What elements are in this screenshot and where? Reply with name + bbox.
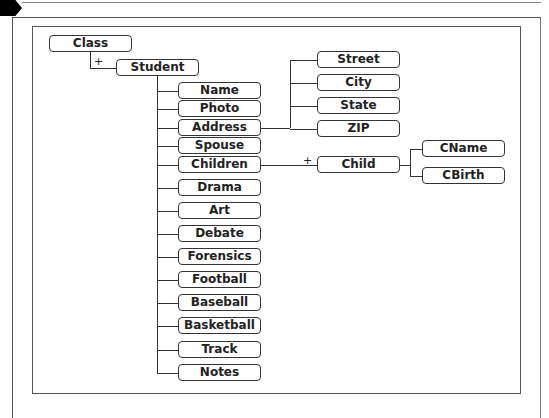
child-field-cbirth: CBirth xyxy=(422,167,505,184)
connector xyxy=(290,60,291,128)
connector xyxy=(157,257,178,258)
attribute-name: Name xyxy=(178,82,261,99)
address-field-state: State xyxy=(317,97,400,114)
connector xyxy=(90,52,91,68)
page-tab-marker xyxy=(0,0,22,16)
attribute-forensics: Forensics xyxy=(178,248,261,265)
connector xyxy=(157,165,178,166)
node-class: Class xyxy=(49,35,132,52)
connector xyxy=(157,303,178,304)
attribute-children: Children xyxy=(178,156,261,173)
diagram-frame xyxy=(32,26,521,394)
connector xyxy=(90,68,116,69)
multiplicity-marker: + xyxy=(94,56,103,67)
connector xyxy=(290,129,317,130)
attribute-photo: Photo xyxy=(178,100,261,117)
node-student: Student xyxy=(116,59,199,76)
connector xyxy=(290,83,317,84)
connector xyxy=(157,188,178,189)
attribute-baseball: Baseball xyxy=(178,294,261,311)
attribute-spouse: Spouse xyxy=(178,137,261,154)
address-field-zip: ZIP xyxy=(317,120,400,137)
connector xyxy=(157,234,178,235)
node-child: Child xyxy=(317,156,400,173)
connector xyxy=(157,128,178,129)
connector xyxy=(157,373,178,374)
connector xyxy=(157,326,178,327)
connector xyxy=(157,146,178,147)
attribute-address: Address xyxy=(178,119,261,136)
attribute-track: Track xyxy=(178,341,261,358)
connector xyxy=(157,211,178,212)
connector xyxy=(157,350,178,351)
multiplicity-marker: + xyxy=(303,155,312,166)
connector xyxy=(410,176,422,177)
connector xyxy=(290,106,317,107)
child-field-cname: CName xyxy=(422,140,505,157)
attribute-football: Football xyxy=(178,271,261,288)
attribute-art: Art xyxy=(178,202,261,219)
attribute-basketball: Basketball xyxy=(178,317,261,334)
connector xyxy=(290,60,317,61)
connector xyxy=(410,149,422,150)
connector xyxy=(410,149,411,176)
attribute-drama: Drama xyxy=(178,179,261,196)
attribute-notes: Notes xyxy=(178,364,261,381)
connector xyxy=(261,128,290,129)
connector xyxy=(399,165,410,166)
connector xyxy=(157,91,178,92)
connector xyxy=(157,76,158,373)
address-field-street: Street xyxy=(317,51,400,68)
connector xyxy=(157,109,178,110)
address-field-city: City xyxy=(317,74,400,91)
connector xyxy=(157,280,178,281)
attribute-debate: Debate xyxy=(178,225,261,242)
header-rule xyxy=(22,2,541,3)
